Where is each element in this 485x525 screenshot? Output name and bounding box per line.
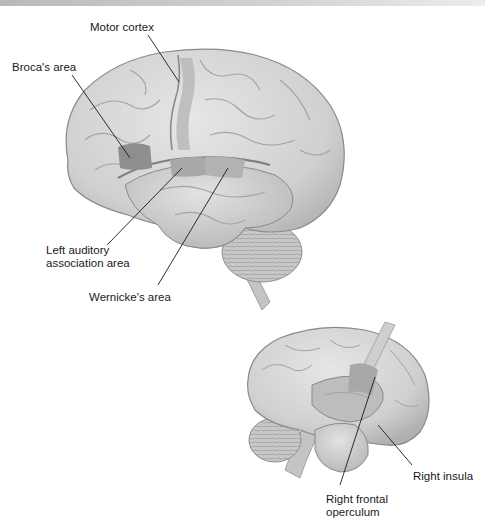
auditory-association-region <box>170 157 205 177</box>
label-left-auditory-line1: Left auditory <box>46 244 109 257</box>
label-brocas-area: Broca's area <box>12 61 76 74</box>
wernickes-area-region <box>205 156 245 178</box>
label-right-frontal-operculum-line1: Right frontal <box>326 493 388 506</box>
label-right-frontal-operculum-line2: operculum <box>326 506 380 519</box>
label-motor-cortex: Motor cortex <box>90 21 154 34</box>
right-hemisphere <box>248 322 429 478</box>
left-hemisphere <box>66 49 344 310</box>
brocas-area-region <box>118 143 152 170</box>
label-wernickes-area: Wernicke's area <box>89 291 171 304</box>
label-left-auditory-line2: association area <box>46 257 130 270</box>
label-right-insula: Right insula <box>413 470 473 483</box>
